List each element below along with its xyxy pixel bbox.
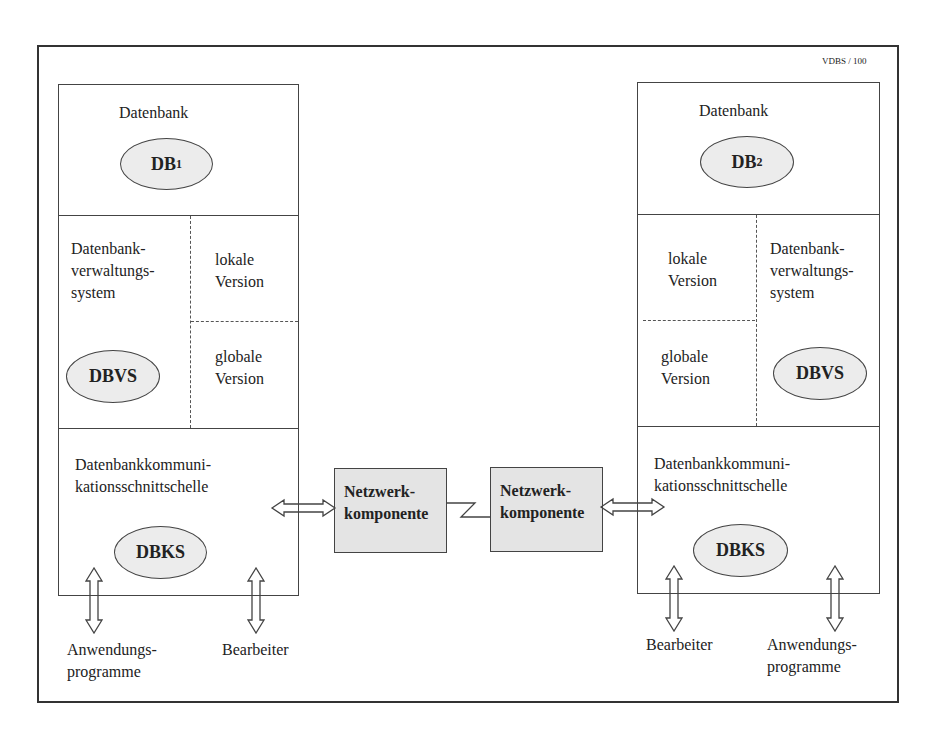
double-arrow-right-link-icon [601, 499, 664, 515]
connector-overlay [0, 0, 936, 737]
double-arrow-left-operator-icon [248, 568, 264, 633]
zigzag-link-icon [447, 503, 490, 517]
double-arrow-right-operator-icon [666, 566, 682, 631]
double-arrow-right-applications-icon [827, 566, 843, 631]
double-arrow-left-applications-icon [86, 568, 102, 633]
double-arrow-left-link-icon [272, 500, 335, 516]
